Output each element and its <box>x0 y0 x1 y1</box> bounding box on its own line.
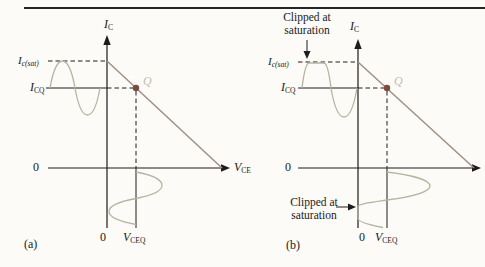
clipped-bottom-line1: Clipped at <box>283 196 345 209</box>
fig-a-plot <box>46 35 230 228</box>
q-point-a <box>133 85 139 91</box>
icsat-label-b: Ic(sat) <box>268 56 289 69</box>
vce-axis-b <box>298 164 481 171</box>
output-waveform-clipped-b <box>358 172 430 228</box>
bottom-zero-label-a: 0 <box>100 231 106 243</box>
clipped-top-line1: Clipped at <box>272 11 342 24</box>
icq-label-b: ICQ <box>281 81 295 95</box>
q-point-label-a: Q <box>143 75 152 87</box>
subfigure-caption-b: (b) <box>286 239 300 251</box>
ic-axis-b <box>354 39 361 228</box>
origin-zero-label-a: 0 <box>33 161 39 173</box>
load-line-figure: IC Ic(sat) ICQ Q 0 VCE 0 VCEQ (a) Clippe… <box>0 0 485 267</box>
vceq-label-a: VCEQ <box>123 231 145 245</box>
q-point-b <box>384 85 390 91</box>
vce-axis-a <box>48 164 230 171</box>
ic-axis-label-b: IC <box>350 20 359 34</box>
icq-label-a: ICQ <box>30 81 44 95</box>
bottom-zero-label-b: 0 <box>359 231 365 243</box>
q-point-label-b: Q <box>394 75 403 87</box>
clipped-at-saturation-label-top: Clipped at saturation <box>272 11 342 37</box>
subfigure-caption-a: (a) <box>24 238 37 250</box>
clipped-at-saturation-label-bottom: Clipped at saturation <box>283 196 345 222</box>
origin-zero-label-b: 0 <box>285 161 291 173</box>
ic-axis-label-a: IC <box>104 18 113 32</box>
clip-indicator-arrow-down-icon <box>304 40 311 59</box>
clipped-top-line2: saturation <box>272 24 342 37</box>
figure-strokes <box>0 0 485 267</box>
clipped-bottom-line2: saturation <box>283 209 345 222</box>
vceq-label-b: VCEQ <box>375 231 397 245</box>
load-line-b <box>358 62 474 168</box>
load-line-a <box>107 61 222 168</box>
icsat-label-a: Ic(sat) <box>18 55 39 68</box>
vce-axis-label-a: VCE <box>234 161 251 175</box>
input-waveform-clipped-b <box>302 63 357 117</box>
